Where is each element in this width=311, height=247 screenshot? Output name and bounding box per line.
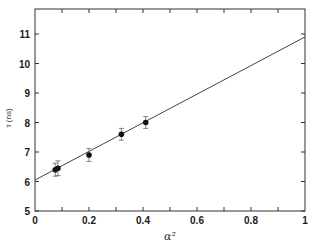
x-tick-label: 0.6	[190, 215, 204, 226]
fit-line	[35, 37, 305, 180]
x-axis-ticks: 00.20.40.60.81	[32, 9, 308, 226]
y-tick-label: 6	[24, 177, 30, 188]
x-tick-label: 0.8	[244, 215, 258, 226]
y-tick-label: 8	[24, 118, 30, 129]
scatter-chart: 00.20.40.60.81 567891011 τ (ns) α²	[0, 0, 311, 247]
marker-dot	[119, 132, 125, 138]
marker-dot	[86, 152, 92, 158]
marker-dot	[143, 120, 149, 126]
data-point	[143, 117, 149, 129]
y-tick-label: 10	[19, 59, 31, 70]
plot-border	[35, 9, 305, 211]
fit-line-path	[35, 37, 305, 180]
x-tick-label: 0	[32, 215, 38, 226]
data-point	[119, 128, 125, 140]
y-tick-label: 11	[19, 29, 30, 40]
y-tick-label: 7	[24, 147, 30, 158]
plot-frame	[35, 9, 305, 211]
y-tick-label: 9	[24, 88, 30, 99]
x-tick-label: 1	[302, 215, 308, 226]
y-tick-label: 5	[24, 206, 30, 217]
x-tick-label: 0.4	[136, 215, 150, 226]
x-tick-label: 0.2	[82, 215, 96, 226]
y-axis-label: τ (ns)	[4, 108, 13, 127]
data-points	[52, 117, 148, 177]
y-axis-ticks: 567891011	[19, 29, 305, 217]
marker-dot	[55, 165, 61, 171]
x-axis-label: α²	[164, 230, 176, 243]
